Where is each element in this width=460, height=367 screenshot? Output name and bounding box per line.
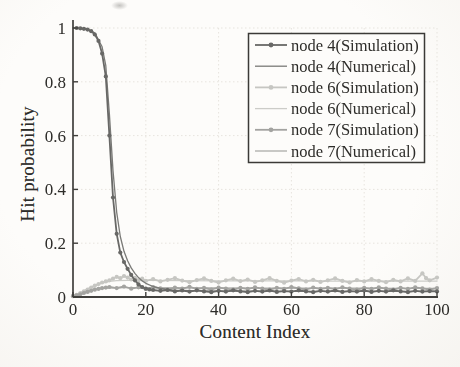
series-marker-node4-simulation [369,290,373,294]
series-marker-node4-simulation [275,290,279,294]
legend-label-node6-simulation: node 6(Simulation) [291,78,419,97]
series-marker-node6-simulation [217,280,221,284]
series-marker-node6-simulation [297,277,301,281]
series-marker-node4-simulation [406,290,410,294]
series-marker-node4-simulation [82,27,86,31]
series-marker-node4-simulation [151,288,155,292]
series-marker-node4-simulation [260,290,264,294]
series-marker-node7-simulation [89,289,93,293]
series-marker-node4-simulation [89,29,93,33]
legend-label-node7-simulation: node 7(Simulation) [291,120,419,139]
series-marker-node4-simulation [355,290,359,294]
series-marker-node7-simulation [187,285,191,289]
series-marker-node7-simulation [86,290,90,294]
series-marker-node6-simulation [238,279,242,283]
series-marker-node6-simulation [377,279,381,283]
series-marker-node6-simulation [435,276,439,280]
series-marker-node7-simulation [129,287,133,291]
series-marker-node6-simulation [384,280,388,284]
series-marker-node6-simulation [333,276,337,280]
series-marker-node6-simulation [126,276,130,280]
y-tick-label: 0.8 [45,73,66,92]
series-marker-node6-simulation [96,282,100,286]
series-marker-node4-simulation [129,273,133,277]
series-marker-node4-simulation [231,288,235,292]
series-marker-node6-simulation [253,280,257,284]
series-marker-node7-simulation [311,286,315,290]
series-marker-node6-simulation [428,278,432,282]
series-marker-node7-simulation [82,291,86,295]
series-marker-node7-simulation [326,286,330,290]
series-marker-node4-simulation [326,290,330,294]
series-marker-node6-simulation [173,276,177,280]
series-marker-node6-simulation [115,275,119,279]
x-tick-label: 40 [210,300,227,319]
series-marker-node6-simulation [348,280,352,284]
x-tick-label: 100 [424,300,450,319]
series-marker-node4-simulation [107,134,111,138]
series-marker-node6-simulation [100,280,104,284]
series-marker-node6-simulation [209,279,213,283]
series-marker-node7-simulation [100,286,104,290]
series-marker-node6-simulation [246,277,250,281]
series-marker-node4-simulation [304,289,308,293]
y-tick-label: 0.2 [45,234,66,253]
series-marker-node7-simulation [275,286,279,290]
y-tick-label: 1 [58,19,67,38]
x-tick-label: 80 [356,300,373,319]
series-marker-node6-simulation [93,284,97,288]
series-marker-node7-simulation [289,285,293,289]
legend-label-node4-numerical: node 4(Numerical) [291,57,416,76]
series-marker-node6-simulation [391,278,395,282]
series-marker-node7-simulation [96,287,100,291]
series-marker-node4-simulation [384,290,388,294]
series-marker-node6-simulation [355,278,359,282]
series-marker-node4-simulation [246,290,250,294]
series-marker-node4-simulation [147,287,151,291]
series-marker-node6-simulation [424,276,428,280]
series-marker-node4-simulation [115,232,119,236]
series-marker-node6-simulation [318,280,322,284]
series-marker-node6-simulation [122,274,126,278]
series-marker-node7-simulation [78,292,82,296]
series-marker-node7-simulation [115,286,119,290]
series-marker-node6-simulation [158,279,162,283]
series-marker-node6-simulation [304,279,308,283]
series-marker-node4-simulation [311,290,315,294]
series-marker-node6-simulation [268,276,272,280]
series-marker-node6-simulation [369,277,373,281]
x-tick-label: 20 [137,300,154,319]
legend-marker-node4-simulation [269,43,274,48]
series-marker-node6-simulation [224,278,228,282]
series-marker-node4-simulation [104,74,108,78]
series-marker-node6-simulation [107,278,111,282]
series-marker-node4-simulation [362,288,366,292]
series-marker-node4-simulation [253,289,257,293]
series-marker-node4-simulation [391,288,395,292]
series-marker-node4-simulation [136,282,140,286]
x-tick-label: 60 [283,300,300,319]
series-marker-node7-simulation [107,285,111,289]
series-marker-node6-simulation [260,278,264,282]
series-marker-node7-simulation [340,285,344,289]
series-marker-node4-simulation [224,290,228,294]
series-marker-node6-simulation [104,279,108,283]
x-tick-label: 0 [69,300,78,319]
series-marker-node4-simulation [100,52,104,56]
series-marker-node7-simulation [122,284,126,288]
scanned-figure: 02040608010000.20.40.60.81node 4(Simulat… [0,0,460,367]
series-marker-node4-simulation [96,39,100,43]
series-marker-node4-simulation [297,288,301,292]
series-marker-node6-simulation [118,276,122,280]
series-marker-node4-simulation [166,288,170,292]
series-marker-node4-simulation [111,195,115,199]
series-marker-node4-simulation [122,260,126,264]
series-marker-node6-simulation [275,279,279,283]
legend-label-node7-numerical: node 7(Numerical) [291,142,416,161]
series-marker-node6-simulation [195,278,199,282]
series-marker-node4-simulation [173,289,177,293]
series-marker-node4-simulation [282,289,286,293]
series-marker-node4-simulation [180,288,184,292]
series-marker-node6-simulation [231,277,235,281]
series-marker-node6-simulation [289,279,293,283]
